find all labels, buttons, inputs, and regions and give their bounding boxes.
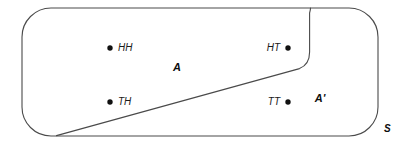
outcome-dot-tt — [285, 99, 290, 104]
outcome-dot-th — [107, 99, 112, 104]
region-label-a-complement: A' — [314, 92, 326, 104]
outcome-label-hh: HH — [118, 42, 133, 53]
set-diagram: HH HT TH TT A A' S — [0, 0, 406, 150]
region-label-a: A — [172, 61, 181, 73]
outcome-label-ht: HT — [267, 42, 281, 53]
outcome-dot-hh — [107, 45, 112, 50]
outcome-label-tt: TT — [268, 96, 281, 107]
outcome-label-th: TH — [118, 96, 132, 107]
diagram-canvas: HH HT TH TT A A' S — [0, 0, 406, 150]
sample-space-label: S — [384, 123, 391, 134]
outcome-dot-ht — [285, 45, 290, 50]
sample-space-boundary — [22, 8, 378, 136]
